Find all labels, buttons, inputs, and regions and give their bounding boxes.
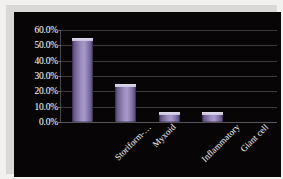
bar-highlight	[159, 112, 180, 115]
gridline	[61, 107, 277, 108]
x-axis-labels: Storiform-…MyxoidInflammatoryGiant cellA…	[61, 122, 277, 177]
chart-canvas: 60.0%50.0%40.0%30.0%20.0%10.0%0.0% Stori…	[14, 12, 281, 177]
y-axis-tick-label: 10.0%	[34, 102, 58, 112]
bar	[202, 112, 223, 122]
y-axis-tick	[57, 45, 61, 46]
y-axis-tick	[57, 91, 61, 92]
bar	[72, 38, 93, 122]
gridline	[61, 45, 277, 46]
gridline	[61, 61, 277, 62]
x-axis-tick-label: Storiform-…	[112, 122, 152, 162]
y-axis-tick	[57, 76, 61, 77]
bar	[159, 112, 180, 122]
y-axis-tick	[57, 107, 61, 108]
bar-highlight	[72, 38, 93, 41]
x-axis-tick-label: Giant cell	[239, 122, 271, 154]
chart-figure: 60.0%50.0%40.0%30.0%20.0%10.0%0.0% Stori…	[0, 0, 283, 179]
gridline	[61, 91, 277, 92]
x-axis-tick-label: Myxoid	[150, 122, 177, 149]
x-axis-tick-label: Inflammatory	[199, 122, 241, 164]
y-axis-tick-label: 50.0%	[34, 40, 58, 50]
chart-frame: 60.0%50.0%40.0%30.0%20.0%10.0%0.0% Stori…	[6, 5, 277, 174]
y-axis-tick-label: 60.0%	[34, 25, 58, 35]
y-axis-tick-label: 40.0%	[34, 56, 58, 66]
y-axis-tick-label: 20.0%	[34, 86, 58, 96]
bar	[115, 84, 136, 122]
y-axis-tick-label: 0.0%	[39, 117, 58, 127]
y-axis-tick-label: 30.0%	[34, 71, 58, 81]
plot-area	[61, 30, 277, 122]
y-axis-labels: 60.0%50.0%40.0%30.0%20.0%10.0%0.0%	[14, 30, 58, 122]
gridline	[61, 76, 277, 77]
y-axis-tick	[57, 30, 61, 31]
y-axis-tick	[57, 61, 61, 62]
bar-highlight	[115, 84, 136, 87]
gridline	[61, 30, 277, 31]
bar-highlight	[202, 112, 223, 115]
